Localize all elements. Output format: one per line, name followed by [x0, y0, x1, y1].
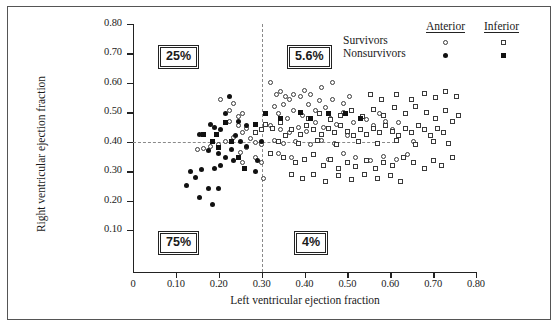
- data-point: [304, 123, 309, 128]
- data-point: [422, 91, 427, 96]
- data-point: [446, 141, 451, 146]
- y-tick-label: 0.70: [88, 47, 122, 58]
- data-point: [431, 158, 436, 163]
- legend-marker-inferior-survivor: [501, 40, 506, 45]
- y-tick-mark: [127, 83, 133, 84]
- data-point: [319, 138, 324, 143]
- x-tick-label: 0.20: [199, 278, 239, 289]
- data-point: [433, 95, 438, 100]
- data-point: [253, 169, 258, 174]
- data-point: [334, 142, 339, 147]
- data-point: [214, 132, 219, 137]
- y-tick-mark: [127, 112, 133, 113]
- data-point: [296, 125, 301, 130]
- y-tick-label: 0.80: [88, 18, 122, 29]
- data-point: [206, 148, 211, 153]
- y-tick-label: 0.50: [88, 106, 122, 117]
- x-tick-label: 0.80: [456, 278, 496, 289]
- x-tick-label: 0.50: [327, 278, 367, 289]
- data-point: [328, 157, 333, 162]
- data-point: [238, 150, 243, 155]
- vertical-reference-line: [262, 24, 263, 272]
- data-point: [212, 166, 217, 171]
- data-point: [326, 111, 331, 116]
- data-point: [416, 123, 421, 128]
- data-point: [345, 129, 350, 134]
- data-point: [368, 92, 373, 97]
- data-point: [379, 97, 384, 102]
- data-point: [390, 163, 395, 168]
- data-point: [336, 166, 341, 171]
- data-point: [223, 139, 228, 144]
- data-point: [431, 139, 436, 144]
- legend-row-nonsurvivors: Nonsurvivors: [343, 47, 406, 59]
- y-tick-mark: [127, 24, 133, 25]
- data-point: [238, 139, 243, 144]
- chart-canvas: 0.800.700.600.500.400.300.200.10 00.100.…: [0, 0, 560, 328]
- y-tick-mark: [127, 171, 133, 172]
- data-point: [373, 166, 378, 171]
- data-point: [229, 139, 234, 144]
- y-tick-mark: [127, 230, 133, 231]
- data-point: [319, 132, 324, 137]
- data-point: [341, 151, 346, 156]
- data-point: [223, 120, 228, 125]
- data-point: [338, 123, 343, 128]
- data-point: [364, 132, 369, 137]
- y-tick-label: 0.30: [88, 165, 122, 176]
- data-point: [443, 108, 448, 113]
- data-point: [424, 110, 429, 115]
- data-point: [358, 127, 363, 132]
- data-point: [454, 94, 459, 99]
- data-point: [413, 104, 418, 109]
- data-point: [435, 126, 440, 131]
- data-point: [216, 145, 221, 150]
- x-tick-label: 0.40: [285, 278, 325, 289]
- data-point: [281, 155, 286, 160]
- x-tick-label: 0.30: [242, 278, 282, 289]
- legend-row-survivors: Survivors: [343, 34, 388, 46]
- legend-marker-inferior-nonsurvivor: [501, 53, 506, 58]
- data-point: [289, 172, 294, 177]
- data-point: [433, 116, 438, 121]
- data-point: [212, 125, 217, 130]
- x-axis-title: Left ventricular ejection fraction: [133, 294, 477, 306]
- x-tick-label: 0: [113, 278, 153, 289]
- data-point: [388, 173, 393, 178]
- y-tick-label: 0.20: [88, 195, 122, 206]
- data-point: [263, 111, 268, 116]
- y-axis-line: [133, 24, 134, 272]
- data-point: [227, 94, 232, 99]
- data-point: [300, 176, 305, 181]
- data-point: [390, 129, 395, 134]
- data-point: [323, 179, 328, 184]
- data-point: [311, 127, 316, 132]
- data-point: [236, 123, 241, 128]
- data-point: [381, 113, 386, 118]
- data-point: [298, 94, 303, 99]
- data-point: [401, 155, 406, 160]
- data-point: [206, 186, 211, 191]
- data-point: [315, 138, 320, 143]
- data-point: [259, 127, 264, 132]
- quadrant-label-lower-left: 75%: [160, 233, 197, 253]
- data-point: [349, 177, 354, 182]
- quadrant-label-upper-left: 25%: [160, 47, 197, 67]
- y-tick-label: 0.40: [88, 136, 122, 147]
- data-point: [298, 132, 303, 137]
- data-point: [285, 116, 290, 121]
- data-point: [281, 141, 286, 146]
- data-point: [240, 160, 245, 165]
- data-point: [317, 98, 322, 103]
- data-point: [394, 138, 399, 143]
- data-point: [223, 111, 228, 116]
- data-point: [317, 111, 322, 116]
- data-point: [428, 133, 433, 138]
- data-point: [319, 85, 324, 90]
- data-point: [383, 123, 388, 128]
- legend-header-anterior: Anterior: [426, 20, 465, 33]
- data-point: [351, 133, 356, 138]
- data-point: [268, 151, 273, 156]
- data-point: [411, 160, 416, 165]
- y-tick-label: 0.10: [88, 224, 122, 235]
